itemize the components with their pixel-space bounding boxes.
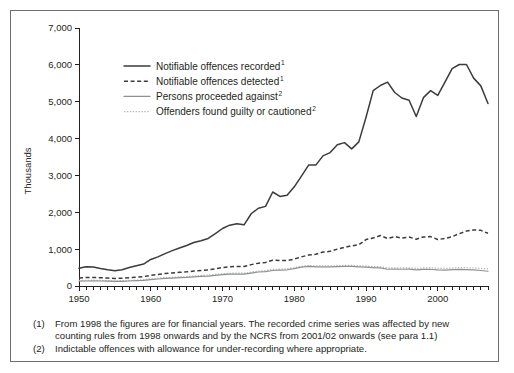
legend-item-persons-proceeded-against: Persons proceeded against2 <box>124 90 283 102</box>
legend-label: Notifiable offences detected <box>156 76 279 87</box>
y-tick-label: 2,000 <box>48 207 72 218</box>
y-axis-title: Thousands <box>22 147 33 194</box>
legend-footnote-marker: 2 <box>312 105 316 112</box>
data-series-group <box>79 64 488 281</box>
x-tick-label: 1990 <box>355 293 376 304</box>
x-axis: 195019601970198019902000 <box>68 286 488 304</box>
legend-label: Notifiable offences recorded <box>156 61 280 72</box>
y-axis: 01,0002,0003,0004,0005,0006,0007,000 <box>48 22 79 291</box>
series-line-notifiable-offences-recorded <box>79 64 488 270</box>
x-tick-label: 1960 <box>140 293 161 304</box>
line-chart: 01,0002,0003,0004,0005,0006,0007,000 195… <box>11 11 500 311</box>
chart-plot-area: 01,0002,0003,0004,0005,0006,0007,000 195… <box>11 11 500 311</box>
footnote-2: (2) Indictable offences with allowance f… <box>11 341 500 355</box>
legend-footnote-marker: 1 <box>281 59 285 66</box>
legend-item-notifiable-offences-detected: Notifiable offences detected1 <box>124 75 284 87</box>
y-tick-label: 5,000 <box>48 96 72 107</box>
legend-label: Persons proceeded against <box>156 91 278 102</box>
y-tick-label: 0 <box>67 280 72 291</box>
footnotes-block: (1) From 1998 the figures are for financ… <box>11 311 500 362</box>
footnote-2-number: (2) <box>33 343 55 355</box>
legend-label: Offenders found guilty or cautioned <box>156 106 311 117</box>
y-tick-label: 3,000 <box>48 170 72 181</box>
x-tick-label: 1980 <box>284 293 305 304</box>
y-tick-label: 6,000 <box>48 59 72 70</box>
legend-footnote-marker: 2 <box>279 90 283 97</box>
footnote-2-text: Indictable offences with allowance for u… <box>55 343 482 355</box>
series-line-notifiable-offences-detected <box>79 230 488 278</box>
x-tick-label: 1950 <box>68 293 89 304</box>
footnote-1-number: (1) <box>33 318 55 341</box>
y-tick-label: 4,000 <box>48 133 72 144</box>
legend-item-offenders-found-guilty-or-cautioned: Offenders found guilty or cautioned2 <box>124 105 316 117</box>
chart-legend: Notifiable offences recorded1Notifiable … <box>124 59 316 117</box>
legend-item-notifiable-offences-recorded: Notifiable offences recorded1 <box>124 59 285 71</box>
x-tick-label: 1970 <box>212 293 233 304</box>
figure-container: 01,0002,0003,0004,0005,0006,0007,000 195… <box>10 10 499 362</box>
y-tick-label: 1,000 <box>48 244 72 255</box>
footnote-1-text: From 1998 the figures are for financial … <box>55 318 482 341</box>
y-tick-label: 7,000 <box>48 22 72 33</box>
x-tick-label: 2000 <box>427 293 448 304</box>
series-line-persons-proceeded-against <box>79 266 488 281</box>
footnote-1: (1) From 1998 the figures are for financ… <box>11 311 500 341</box>
legend-footnote-marker: 1 <box>280 75 284 82</box>
series-line-offenders-found-guilty-or-cautioned <box>79 265 488 280</box>
